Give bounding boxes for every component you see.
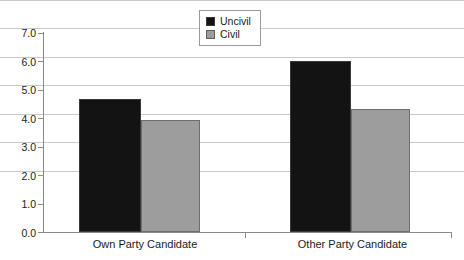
y-axis-label-1: 1.0	[2, 199, 36, 210]
legend-swatch-icon-civil	[206, 30, 215, 39]
bar-chart: 7.0 6.0 5.0 4.0 3.0 2.0 1.0 0.0 Own Part…	[0, 0, 464, 260]
legend: Uncivil Civil	[199, 10, 261, 46]
x-axis-line	[43, 232, 452, 233]
legend-label-uncivil: Uncivil	[220, 16, 251, 27]
bar-other-party-uncivil	[290, 61, 351, 232]
y-axis-label-4: 4.0	[2, 114, 36, 125]
bar-own-party-uncivil	[79, 99, 141, 232]
bar-own-party-civil	[141, 120, 200, 232]
bar-other-party-civil	[351, 109, 410, 232]
plot-area	[44, 33, 452, 232]
legend-label-civil: Civil	[220, 29, 240, 40]
y-axis-label-5: 5.0	[2, 85, 36, 96]
y-axis-label-2: 2.0	[2, 171, 36, 182]
y-axis-labels: 7.0 6.0 5.0 4.0 3.0 2.0 1.0 0.0	[0, 0, 36, 260]
y-axis-label-7: 7.0	[2, 28, 36, 39]
x-axis-label-other-party: Other Party Candidate	[255, 238, 450, 250]
x-tick-right-edge	[451, 232, 452, 238]
y-axis-label-0: 0.0	[2, 228, 36, 239]
legend-item-civil: Civil	[206, 28, 251, 41]
legend-item-uncivil: Uncivil	[206, 15, 251, 28]
x-tick-group-separator	[245, 232, 246, 238]
legend-swatch-icon-uncivil	[206, 17, 215, 26]
y-axis-label-3: 3.0	[2, 142, 36, 153]
gridline-7	[0, 0, 464, 1]
y-tick-0	[38, 232, 44, 233]
x-axis-label-own-party: Own Party Candidate	[50, 238, 240, 250]
y-axis-label-6: 6.0	[2, 57, 36, 68]
